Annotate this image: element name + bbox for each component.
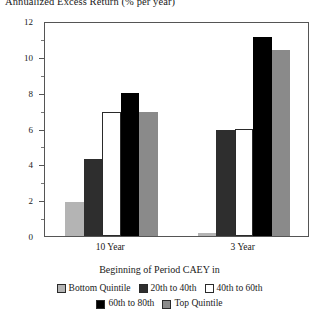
legend-swatch-icon — [162, 300, 171, 309]
x-group-label: 10 Year — [96, 242, 125, 252]
x-group-label: 3 Year — [231, 242, 255, 252]
bar — [272, 50, 291, 236]
plot-area — [44, 22, 309, 237]
y-tick-label: 4 — [29, 161, 34, 170]
legend-item-label: Bottom Quintile — [69, 282, 131, 295]
bar — [216, 130, 235, 236]
legend-item-label: 40th to 60th — [217, 282, 263, 295]
chart-legend: Beginning of Period CAEY in Bottom Quint… — [0, 263, 319, 310]
legend-swatch-icon — [139, 284, 148, 293]
y-tick-label: 2 — [29, 197, 34, 206]
legend-item[interactable]: 40th to 60th — [205, 280, 263, 295]
legend-item-label: 60th to 80th — [108, 297, 154, 310]
y-tick-label: 0 — [29, 233, 34, 242]
bar — [235, 129, 254, 237]
legend-item[interactable]: 60th to 80th — [96, 296, 154, 311]
y-tick-label: 10 — [24, 53, 33, 62]
bar — [198, 233, 217, 236]
legend-item[interactable]: 20th to 40th — [139, 280, 197, 295]
legend-row-2: 60th to 80thTop Quintile — [0, 295, 319, 311]
legend-swatch-icon — [57, 284, 66, 293]
legend-item-label: 20th to 40th — [151, 282, 197, 295]
bar — [253, 37, 272, 236]
chart-figure: Annualized Excess Return (% per year) 02… — [0, 0, 319, 313]
legend-swatch-icon — [96, 300, 105, 309]
y-tick-label: 6 — [29, 125, 34, 134]
bar-group — [45, 23, 310, 236]
legend-row-1: Bottom Quintile20th to 40th40th to 60th — [0, 279, 319, 295]
legend-swatch-icon — [205, 284, 214, 293]
legend-title: Beginning of Period CAEY in — [0, 263, 319, 276]
y-tick-label: 12 — [24, 18, 33, 27]
legend-item-label: Top Quintile — [174, 297, 222, 310]
legend-item[interactable]: Top Quintile — [162, 296, 222, 311]
y-tick-label: 8 — [29, 89, 34, 98]
legend-item[interactable]: Bottom Quintile — [57, 280, 131, 295]
